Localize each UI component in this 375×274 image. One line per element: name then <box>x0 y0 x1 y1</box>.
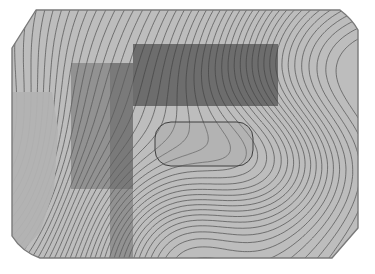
overlay-rect-dark-top[interactable] <box>133 44 278 106</box>
contour-line <box>345 0 348 2</box>
overlay-band-vertical[interactable] <box>110 63 133 258</box>
contour-line <box>320 0 324 3</box>
contour-line <box>370 13 375 15</box>
overlay-rounded-rect-center[interactable] <box>155 122 253 166</box>
contour-line <box>245 0 247 3</box>
contour-line <box>20 0 21 3</box>
contour-line <box>360 0 366 2</box>
contour-line <box>0 0 11 146</box>
figure-canvas <box>0 0 375 274</box>
contour-plot[interactable] <box>0 0 375 274</box>
